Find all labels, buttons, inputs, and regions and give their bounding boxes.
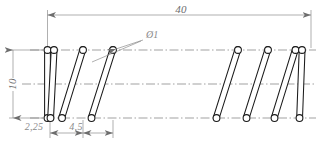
coil-wire-body: [272, 47, 299, 120]
wire-section-top: [44, 47, 51, 54]
coil-wire-body: [297, 48, 305, 120]
leader-line-lower: [92, 41, 141, 62]
wire-section-top: [299, 47, 306, 54]
wire-section-top: [110, 47, 117, 54]
coil-wire-body: [244, 47, 271, 120]
wire-section-bottom: [243, 115, 250, 122]
callout-label-wire-diameter: Ø1: [145, 29, 158, 40]
spring-drawing-svg: 40 10 2,25 4,5: [0, 0, 317, 159]
coil-wire-body: [59, 47, 86, 120]
coil-wire-body: [214, 47, 241, 120]
wire-section-top: [51, 47, 58, 54]
spring-coil-3: [59, 47, 87, 122]
leader-line-upper: [116, 40, 143, 49]
spring-coil-5: [213, 47, 241, 122]
wire-section-bottom: [88, 115, 95, 122]
wire-section-bottom: [47, 115, 54, 122]
wire-section-bottom: [213, 115, 220, 122]
engineering-drawing-canvas: 40 10 2,25 4,5: [0, 0, 317, 159]
spring-coil-8-end: [296, 47, 305, 122]
wire-section-top: [235, 47, 242, 54]
wire-section-bottom: [59, 115, 66, 122]
dimension-label-outer-diameter: 10: [6, 78, 18, 90]
dimension-label-overall-length: 40: [175, 3, 187, 15]
callout-wire-diameter: Ø1: [92, 29, 158, 62]
wire-section-top: [80, 47, 87, 54]
wire-section-bottom: [296, 115, 303, 122]
dimension-label-coil-pitch: 4,5: [69, 121, 82, 132]
dimension-bottom-group: 2,25 4,5: [25, 120, 113, 138]
wire-section-top: [265, 47, 272, 54]
wire-section-top: [292, 47, 299, 54]
wire-section-bottom: [271, 115, 278, 122]
dimension-label-end-pitch: 2,25: [25, 121, 44, 132]
dimension-overall-length: 40: [48, 3, 312, 48]
